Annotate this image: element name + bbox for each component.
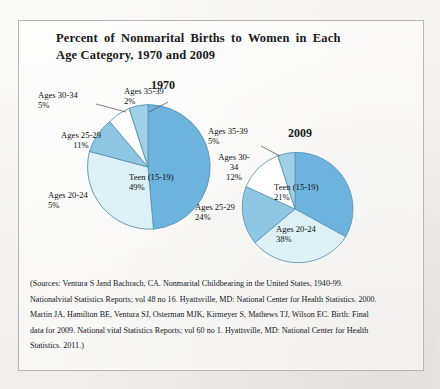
- pie-label-1970-ages-35-39-name: Ages 35-39: [124, 86, 164, 96]
- sources-line-5: Statistics. 2011.): [30, 338, 412, 354]
- pie-label-1970-ages-20-24: Ages 20-24 5%: [48, 190, 88, 210]
- pie-label-2009-teen-name: Teen (15-19): [274, 182, 319, 192]
- pie-label-1970-ages-25-29-name: Ages 25-29: [61, 130, 101, 140]
- pie-label-1970-ages-30-34-name: Ages 30-34: [38, 90, 78, 100]
- pie-label-1970-teen-name: Teen (15-19): [129, 172, 174, 182]
- chart-title-2009: 2009: [288, 126, 312, 141]
- pie-label-2009-ages-30-34-pct: 12%: [215, 172, 253, 182]
- pie-label-2009-ages-35-39-name: Ages 35-39: [208, 126, 248, 136]
- pie-2009-svg: [236, 150, 354, 268]
- pie-label-2009-ages-20-24: Ages 20-24 38%: [276, 224, 316, 244]
- page-title-line-1: Percent of Nonmarital Births to Women in…: [56, 30, 356, 47]
- pie-label-2009-ages-20-24-pct: 38%: [276, 234, 316, 244]
- pie-label-1970-ages-35-39-pct: 2%: [124, 96, 164, 106]
- pie-label-2009-ages-25-29-name: Ages 25-29: [195, 202, 235, 212]
- page-title-line-2: Age Category, 1970 and 2009: [56, 47, 356, 64]
- pie-label-2009-teen-pct: 21%: [274, 192, 319, 202]
- sources-line-4: data for 2009. National vital Statistics…: [30, 323, 412, 339]
- pie-label-1970-ages-20-24-name: Ages 20-24: [48, 190, 88, 200]
- pie-label-1970-ages-25-29-pct: 11%: [61, 140, 101, 150]
- pie-label-2009-ages-25-29-pct: 24%: [195, 212, 235, 222]
- pie-label-2009-teen: Teen (15-19) 21%: [274, 182, 319, 202]
- pie-label-1970-ages-20-24-pct: 5%: [48, 200, 88, 210]
- pie-label-1970-teen-pct: 49%: [129, 182, 174, 192]
- pie-label-1970-ages-30-34: Ages 30-34 5%: [38, 90, 78, 110]
- charts-area: 1970 2009: [18, 72, 422, 262]
- pie-chart-2009: [236, 150, 354, 268]
- pie-label-1970-ages-30-34-pct: 5%: [38, 100, 78, 110]
- pie-label-2009-ages-35-39: Ages 35-39 5%: [208, 126, 248, 146]
- pie-label-2009-ages-20-24-name: Ages 20-24: [276, 224, 316, 234]
- pie-label-2009-ages-25-29: Ages 25-29 24%: [195, 202, 235, 222]
- sources-line-3: Martin JA, Hamilton BE, Ventura SJ, Oste…: [30, 307, 412, 323]
- page-title: Percent of Nonmarital Births to Women in…: [56, 30, 356, 64]
- pie-label-1970-teen: Teen (15-19) 49%: [129, 172, 174, 192]
- pie-label-2009-ages-35-39-pct: 5%: [208, 136, 248, 146]
- pie-label-2009-ages-30-34-name: Ages 30-34: [218, 152, 249, 172]
- pie-label-1970-ages-35-39: Ages 35-39 2%: [124, 86, 164, 106]
- pie-1970-svg: [83, 102, 213, 232]
- sources-line-2: Nationalvital Statistics Reports; vol 48…: [30, 292, 412, 308]
- pie-chart-1970: [83, 102, 213, 232]
- sources-line-1: (Sources: Ventura S Jand Bachrach, CA. N…: [30, 276, 412, 292]
- pie-label-2009-ages-30-34: Ages 30-34 12%: [215, 152, 253, 182]
- pie-label-1970-ages-25-29: Ages 25-29 11%: [61, 130, 101, 150]
- sources-note: (Sources: Ventura S Jand Bachrach, CA. N…: [30, 276, 412, 354]
